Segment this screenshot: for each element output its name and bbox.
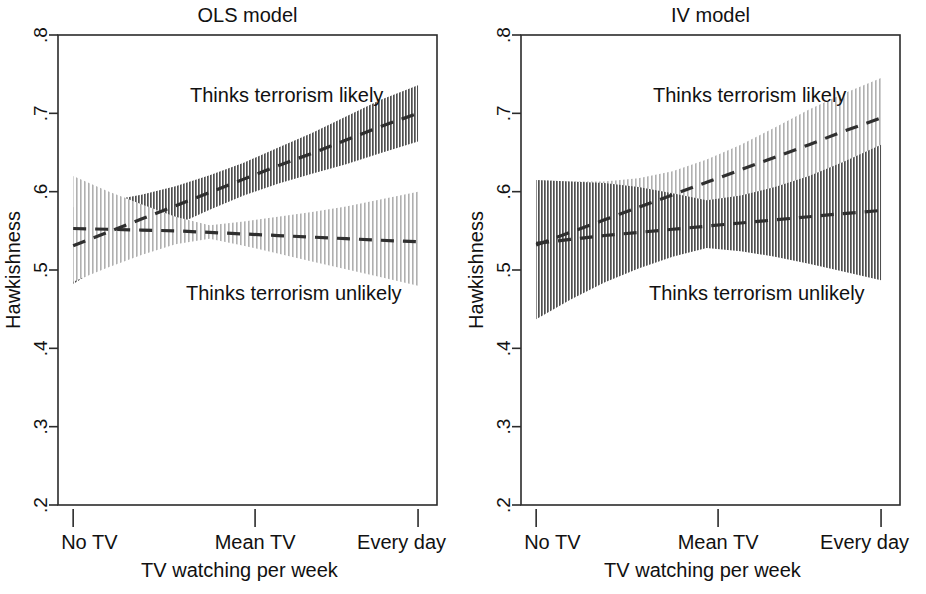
y-tick-label: .3 <box>493 419 514 435</box>
y-tick-label: .3 <box>30 419 51 435</box>
x-axis-title: TV watching per week <box>604 559 802 581</box>
y-tick-label: .5 <box>493 262 514 278</box>
x-tick-label: No TV <box>61 531 118 553</box>
y-tick-label: .4 <box>30 340 51 356</box>
chart-panel-iv: IV model.2.3.4.5.6.7.8HawkishnessNo TVMe… <box>463 0 926 594</box>
series-annotation-1: Thinks terrorism unlikely <box>649 282 865 304</box>
y-tick-label: .8 <box>30 27 51 43</box>
y-tick-label: .7 <box>30 105 51 121</box>
series-annotation-0: Thinks terrorism likely <box>190 84 383 106</box>
y-tick-label: .5 <box>30 262 51 278</box>
y-tick-label: .8 <box>493 27 514 43</box>
x-axis-title: TV watching per week <box>141 559 339 581</box>
y-axis-title: Hawkishness <box>2 211 24 329</box>
x-tick-label: No TV <box>524 531 581 553</box>
x-tick-label: Every day <box>357 531 446 553</box>
x-tick-label: Every day <box>820 531 909 553</box>
y-tick-label: .4 <box>493 340 514 356</box>
y-axis-title: Hawkishness <box>465 211 487 329</box>
series-annotation-1: Thinks terrorism unlikely <box>186 282 402 304</box>
figure-container: OLS model.2.3.4.5.6.7.8HawkishnessNo TVM… <box>0 0 926 594</box>
x-tick-label: Mean TV <box>215 531 296 553</box>
y-tick-label: .7 <box>493 105 514 121</box>
y-tick-label: .6 <box>493 184 514 200</box>
series-annotation-0: Thinks terrorism likely <box>653 84 846 106</box>
panel-title: OLS model <box>197 4 297 26</box>
chart-panel-ols: OLS model.2.3.4.5.6.7.8HawkishnessNo TVM… <box>0 0 463 594</box>
panel-title: IV model <box>671 4 750 26</box>
x-tick-label: Mean TV <box>678 531 759 553</box>
y-tick-label: .2 <box>493 497 514 513</box>
y-tick-label: .2 <box>30 497 51 513</box>
y-tick-label: .6 <box>30 184 51 200</box>
